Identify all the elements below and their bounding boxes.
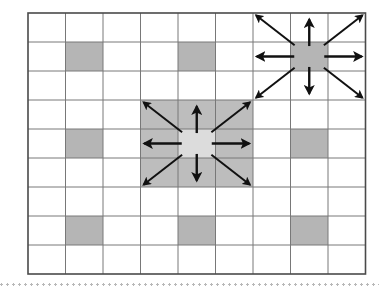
obstacle-cell: [178, 42, 216, 71]
obstacle-cell: [66, 216, 104, 245]
expansion-arrow-nw: [256, 15, 295, 45]
dotted-separator-rule: [0, 283, 379, 286]
expansion-source-cell: [291, 42, 329, 71]
obstacle-cell: [66, 129, 104, 158]
figure-root: [0, 0, 379, 298]
expansion-arrow-ne: [324, 15, 363, 45]
expansion-arrow-se: [324, 68, 363, 98]
obstacle-cell: [291, 129, 329, 158]
obstacle-cell: [178, 216, 216, 245]
expansion-center-cell: [178, 129, 216, 158]
obstacle-cell: [291, 216, 329, 245]
expansion-arrow-sw: [256, 68, 295, 98]
obstacle-cell: [66, 42, 104, 71]
grid-diagram: [0, 0, 379, 298]
